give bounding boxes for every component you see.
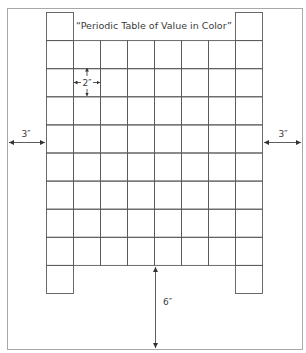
grid-cell xyxy=(128,237,155,265)
grid-cell xyxy=(182,69,209,97)
grid-cell xyxy=(74,153,101,181)
grid-cell xyxy=(101,153,128,181)
grid-cell xyxy=(155,209,182,237)
page-border xyxy=(8,9,303,350)
grid-cell xyxy=(128,125,155,153)
grid-cell xyxy=(74,97,101,125)
bottom-margin-label: 6″ xyxy=(163,297,173,307)
end-column-cell xyxy=(47,125,74,153)
grid-cell xyxy=(182,97,209,125)
grid-cell xyxy=(74,209,101,237)
end-column-cell xyxy=(236,265,263,293)
end-column-cell xyxy=(236,69,263,97)
grid-cell xyxy=(155,41,182,69)
left-margin-dimension: 3″ xyxy=(9,129,45,143)
periodic-table-grid xyxy=(47,13,263,294)
grid-cell xyxy=(209,41,236,69)
bottom-margin-dimension: 6″ xyxy=(156,267,173,348)
grid-cell xyxy=(128,209,155,237)
grid-cell xyxy=(209,181,236,209)
cell-size-dimension: 2″ xyxy=(74,68,100,96)
right-margin-label: 3″ xyxy=(278,129,288,139)
grid-cell xyxy=(209,153,236,181)
end-column-cell xyxy=(47,237,74,265)
cell-size-label: 2″ xyxy=(82,78,92,88)
diagram-title: “Periodic Table of Value in Color” xyxy=(76,20,232,31)
grid-cell xyxy=(155,153,182,181)
grid-cell xyxy=(128,181,155,209)
end-column-cell xyxy=(236,97,263,125)
end-column-cell xyxy=(236,153,263,181)
grid-cell xyxy=(128,41,155,69)
grid-cell xyxy=(155,125,182,153)
grid-cell xyxy=(74,237,101,265)
end-column-cell xyxy=(236,13,263,41)
end-column-cell xyxy=(47,209,74,237)
end-column-cell xyxy=(47,265,74,293)
grid-cell xyxy=(74,125,101,153)
grid-cell xyxy=(101,41,128,69)
grid-cell xyxy=(182,237,209,265)
grid-cell xyxy=(209,125,236,153)
grid-cell xyxy=(101,209,128,237)
grid-cell xyxy=(182,181,209,209)
end-column-cell xyxy=(236,41,263,69)
grid-cell xyxy=(101,97,128,125)
grid-cell xyxy=(128,153,155,181)
grid-cell xyxy=(155,237,182,265)
grid-cell xyxy=(101,237,128,265)
left-margin-label: 3″ xyxy=(21,129,31,139)
grid-cell xyxy=(182,153,209,181)
periodic-table-layout-diagram: “Periodic Table of Value in Color” 2″ 3″… xyxy=(0,0,306,353)
grid-cell xyxy=(128,69,155,97)
grid-cell xyxy=(209,97,236,125)
end-column-cell xyxy=(236,209,263,237)
grid-cell xyxy=(101,69,128,97)
grid-cell xyxy=(209,237,236,265)
grid-cell xyxy=(155,69,182,97)
right-margin-dimension: 3″ xyxy=(264,129,301,143)
grid-cell xyxy=(155,97,182,125)
grid-cell xyxy=(182,209,209,237)
end-column-cell xyxy=(47,69,74,97)
end-column-cell xyxy=(47,181,74,209)
grid-cell xyxy=(182,125,209,153)
grid-cell xyxy=(128,97,155,125)
grid-cell xyxy=(101,125,128,153)
grid-cell xyxy=(74,41,101,69)
end-column-cell xyxy=(47,41,74,69)
grid-cell xyxy=(101,181,128,209)
grid-cell xyxy=(209,69,236,97)
end-column-cell xyxy=(47,153,74,181)
end-column-cell xyxy=(236,237,263,265)
grid-cell xyxy=(155,181,182,209)
end-column-cell xyxy=(47,97,74,125)
end-column-cell xyxy=(236,125,263,153)
grid-cell xyxy=(74,181,101,209)
end-column-cell xyxy=(47,13,74,41)
end-column-cell xyxy=(236,181,263,209)
grid-cell xyxy=(182,41,209,69)
grid-cell xyxy=(209,209,236,237)
